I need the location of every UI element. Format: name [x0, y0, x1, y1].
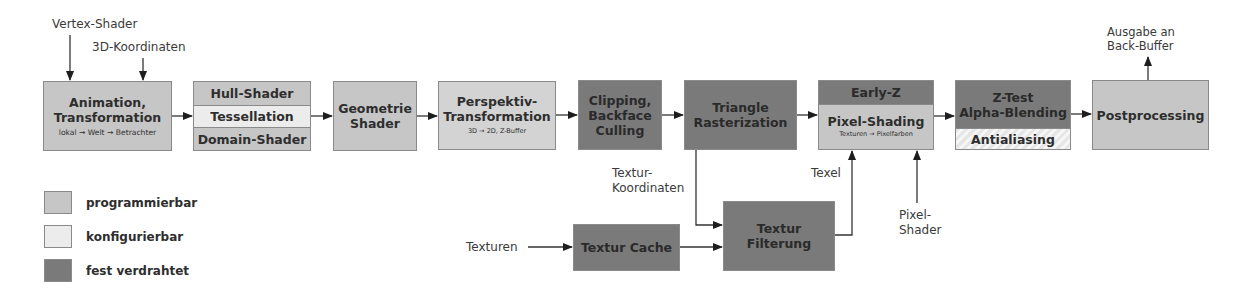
- stage-title: Clipping,: [589, 93, 652, 108]
- stage-title: Rasterization: [694, 115, 788, 130]
- pixel-shader-label-line1: Pixel-: [899, 208, 931, 222]
- stage-perspective-transformation: Perspektiv- Transformation 3D → 2D, Z-Bu…: [438, 81, 556, 150]
- stage-title: Geometrie: [338, 101, 412, 116]
- graphics-pipeline-diagram: Vertex-Shader 3D-Koordinaten Ausgabe an …: [0, 0, 1244, 298]
- stage-title: Transformation: [54, 110, 162, 125]
- stage-animation-transformation: Animation, Transformation lokal → Welt →…: [43, 81, 172, 151]
- legend-label: programmierbar: [86, 196, 197, 210]
- domain-shader-band: Domain-Shader: [194, 127, 310, 150]
- stage-title: Filterung: [747, 236, 811, 251]
- texel-label: Texel: [811, 166, 841, 180]
- stage-tessellation-group: Hull-Shader Tessellation Domain-Shader: [193, 81, 311, 151]
- hull-shader-band: Hull-Shader: [194, 82, 310, 105]
- stage-title: Perspektiv-: [457, 94, 538, 109]
- texture-coords-label-line1: Textur-: [612, 166, 652, 180]
- legend-item-programmable: programmierbar: [44, 191, 197, 214]
- stage-title: Shader: [350, 116, 400, 131]
- legend-item-configurable: konfigurierbar: [44, 225, 183, 248]
- stage-title: Pixel-Shading: [828, 114, 925, 129]
- stage-postprocessing: Postprocessing: [1092, 80, 1209, 150]
- legend-swatch-programmable: [44, 191, 72, 214]
- stage-title: Animation,: [69, 95, 146, 110]
- stage-triangle-rasterization: Triangle Rasterization: [684, 80, 797, 150]
- stage-geometry-shader: Geometrie Shader: [333, 81, 417, 151]
- 3d-coordinates-label: 3D-Koordinaten: [92, 40, 186, 54]
- legend-label: fest verdrahtet: [86, 264, 189, 278]
- stage-clipping-culling: Clipping, Backface Culling: [578, 80, 662, 150]
- stage-title: Alpha-Blending: [959, 105, 1067, 120]
- vertex-shader-label: Vertex-Shader: [52, 17, 137, 31]
- stage-subtitle: 3D → 2D, Z-Buffer: [468, 126, 526, 137]
- stage-title: Textur Cache: [581, 240, 672, 255]
- antialiasing-band: Antialiasing: [956, 128, 1070, 149]
- stage-ztest-blending-group: Z-Test Alpha-Blending Antialiasing: [955, 80, 1071, 150]
- stage-title: Textur: [757, 221, 801, 236]
- stage-subtitle: Texturen → Pixelfarben: [839, 129, 913, 140]
- early-z-band: Early-Z: [819, 81, 933, 104]
- ztest-blending-band: Z-Test Alpha-Blending: [956, 81, 1070, 128]
- output-label-line2: Back-Buffer: [1107, 39, 1174, 53]
- stage-title: Backface: [588, 108, 651, 123]
- stage-title: Postprocessing: [1097, 108, 1205, 123]
- stage-subtitle: lokal → Welt → Betrachter: [59, 127, 156, 138]
- legend-label: konfigurierbar: [86, 230, 183, 244]
- legend-item-fixed-function: fest verdrahtet: [44, 259, 189, 282]
- legend-swatch-configurable: [44, 225, 72, 248]
- textures-label: Texturen: [466, 240, 518, 254]
- output-label-line1: Ausgabe an: [1107, 25, 1175, 39]
- stage-title: Transformation: [443, 109, 551, 124]
- stage-texture-cache: Textur Cache: [573, 224, 680, 271]
- texture-coords-label-line2: Koordinaten: [612, 181, 684, 195]
- stage-texture-filtering: Textur Filterung: [723, 201, 835, 271]
- stage-title: Z-Test: [993, 90, 1034, 105]
- stage-title: Triangle: [712, 100, 769, 115]
- pixel-shader-label-line2: Shader: [899, 223, 942, 237]
- pixel-shading-band: Pixel-Shading Texturen → Pixelfarben: [819, 104, 933, 149]
- legend-swatch-fixed-function: [44, 259, 72, 282]
- stage-title: Culling: [596, 123, 645, 138]
- tessellation-band: Tessellation: [194, 105, 310, 127]
- stage-pixel-shading-group: Early-Z Pixel-Shading Texturen → Pixelfa…: [818, 80, 934, 150]
